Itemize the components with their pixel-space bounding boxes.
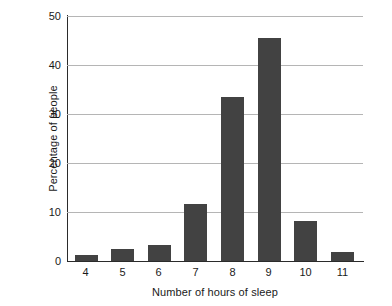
y-tick-label-40: 40 bbox=[43, 59, 61, 71]
gridline-50 bbox=[67, 16, 363, 17]
gridline-10 bbox=[67, 212, 363, 213]
gridline-20 bbox=[67, 163, 363, 164]
bar-6 bbox=[148, 245, 171, 261]
y-tick-label-30: 30 bbox=[43, 108, 61, 120]
plot-area bbox=[67, 16, 363, 261]
bar-4 bbox=[75, 255, 98, 261]
bar-10 bbox=[294, 221, 317, 261]
x-axis-line bbox=[67, 261, 364, 262]
y-axis-title: Percentage of people bbox=[44, 16, 62, 261]
y-tick-label-0: 0 bbox=[43, 255, 61, 267]
bar-8 bbox=[221, 97, 244, 261]
bar-5 bbox=[111, 249, 134, 261]
y-tick-label-20: 20 bbox=[43, 157, 61, 169]
y-tick-label-10: 10 bbox=[43, 206, 61, 218]
bar-chart-figure: Percentage of people 50 40 30 20 10 0 4 … bbox=[0, 0, 392, 306]
gridline-30 bbox=[67, 114, 363, 115]
gridline-40 bbox=[67, 65, 363, 66]
x-tick-label-11: 11 bbox=[318, 266, 367, 278]
bar-7 bbox=[184, 204, 207, 261]
x-axis-title: Number of hours of sleep bbox=[67, 286, 363, 298]
y-tick-label-50: 50 bbox=[43, 10, 61, 22]
bar-11 bbox=[331, 252, 354, 261]
bar-9 bbox=[258, 38, 281, 261]
